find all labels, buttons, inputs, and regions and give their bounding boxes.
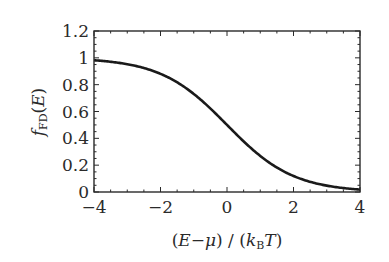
x-tick-labels: −4−2024 [81,197,365,217]
plot-frame [94,31,360,192]
y-tick-label: 0 [78,182,89,202]
x-axis-label: (E−μ) / (kBT) [172,230,283,252]
y-tick-label: 0.4 [62,128,89,148]
chart: −4−2024 00.20.40.60.811.2 (E−μ) / (kBT) … [0,0,389,262]
y-tick-labels: 00.20.40.60.811.2 [62,21,89,202]
x-tick-label: 4 [355,197,366,217]
y-tick-label: 1.2 [62,21,89,41]
y-tick-label: 1 [78,48,89,68]
y-tick-label: 0.8 [62,75,89,95]
x-tick-label: 0 [222,197,233,217]
y-tick-label: 0.6 [62,102,89,122]
y-tick-label: 0.2 [62,155,89,175]
axis-ticks [94,31,360,192]
x-tick-label: −2 [148,197,173,217]
fermi-dirac-curve [94,60,360,189]
x-tick-label: 2 [288,197,299,217]
y-axis-label: fFD(E) [28,88,50,138]
